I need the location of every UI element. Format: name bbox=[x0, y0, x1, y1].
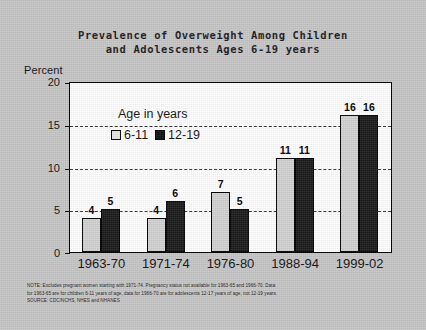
x-axis-tick-labels: 1963-70 1971-74 1976-80 1988-94 1999-02 bbox=[69, 256, 392, 276]
footnote: NOTE: Excludes pregnant women starting w… bbox=[27, 282, 419, 305]
bar-value-1999-02-12-19: 16 bbox=[359, 101, 378, 113]
bar-value-1988-94-12-19: 11 bbox=[295, 144, 314, 156]
bar-1999-02-12-19[interactable] bbox=[359, 115, 378, 252]
bar-value-1963-70-12-19: 5 bbox=[101, 195, 120, 207]
bar-group-1976-80: 7 5 bbox=[199, 83, 264, 252]
legend-entry-12-19[interactable]: 12-19 bbox=[155, 128, 200, 142]
bar-value-1963-70-6-11: 4 bbox=[82, 204, 101, 216]
x-tick-label-1971-74: 1971-74 bbox=[142, 256, 190, 271]
bar-value-1971-74-12-19: 6 bbox=[166, 187, 185, 199]
bar-1963-70-12-19[interactable] bbox=[101, 209, 120, 252]
bar-1963-70-6-11[interactable] bbox=[82, 218, 101, 252]
bar-value-1976-80-6-11: 7 bbox=[211, 178, 230, 190]
legend-label-12-19: 12-19 bbox=[168, 128, 200, 142]
x-tick-label-1963-70: 1963-70 bbox=[77, 256, 125, 271]
bar-1988-94-6-11[interactable] bbox=[276, 158, 295, 252]
bar-1971-74-12-19[interactable] bbox=[166, 201, 185, 252]
bar-group-1988-94: 11 11 bbox=[264, 83, 329, 252]
x-tick-label-1976-80: 1976-80 bbox=[207, 256, 255, 271]
footnote-note-line-2: for 1963-65 are for children 6-11 years … bbox=[27, 290, 419, 298]
y-tick-label-0: 0 bbox=[26, 247, 60, 259]
x-tick-label-1999-02: 1999-02 bbox=[336, 256, 384, 271]
bar-value-1976-80-12-19: 5 bbox=[230, 195, 249, 207]
chart-screenshot: Prevalence of Overweight Among Children … bbox=[0, 0, 426, 330]
legend-entry-6-11[interactable]: 6-11 bbox=[111, 128, 148, 142]
y-tick-label-15: 15 bbox=[26, 119, 60, 131]
chart-title: Prevalence of Overweight Among Children … bbox=[0, 28, 426, 56]
x-tick-label-1988-94: 1988-94 bbox=[271, 256, 319, 271]
legend-swatch-dark-icon bbox=[155, 130, 165, 140]
legend-label-6-11: 6-11 bbox=[124, 128, 148, 142]
legend-items: 6-11 12-19 bbox=[108, 128, 203, 142]
legend-title: Age in years bbox=[118, 107, 187, 121]
bar-1976-80-6-11[interactable] bbox=[211, 192, 230, 252]
legend-swatch-light-icon bbox=[111, 130, 121, 140]
bar-group-1999-02: 16 16 bbox=[328, 83, 393, 252]
bar-value-1999-02-6-11: 16 bbox=[340, 101, 359, 113]
plot-area: Age in years 6-11 12-19 bbox=[69, 82, 392, 253]
chart-title-line-2: and Adolescents Ages 6-19 years bbox=[0, 42, 426, 56]
y-tick-0 bbox=[65, 253, 70, 254]
footnote-source-line: SOURCE: CDC/NCHS, NHES and NHANES bbox=[27, 297, 419, 305]
bar-1976-80-12-19[interactable] bbox=[230, 209, 249, 252]
bar-1971-74-6-11[interactable] bbox=[147, 218, 166, 252]
y-tick-label-10: 10 bbox=[26, 162, 60, 174]
bar-value-1971-74-6-11: 4 bbox=[147, 204, 166, 216]
bar-value-1988-94-6-11: 11 bbox=[276, 144, 295, 156]
footnote-note-line-1: NOTE: Excludes pregnant women starting w… bbox=[27, 282, 419, 290]
chart-title-line-1: Prevalence of Overweight Among Children bbox=[0, 28, 426, 42]
bar-1988-94-12-19[interactable] bbox=[295, 158, 314, 252]
y-axis-label: Percent bbox=[24, 64, 63, 76]
y-tick-label-5: 5 bbox=[26, 204, 60, 216]
y-tick-label-20: 20 bbox=[26, 76, 60, 88]
bar-1999-02-6-11[interactable] bbox=[340, 115, 359, 252]
